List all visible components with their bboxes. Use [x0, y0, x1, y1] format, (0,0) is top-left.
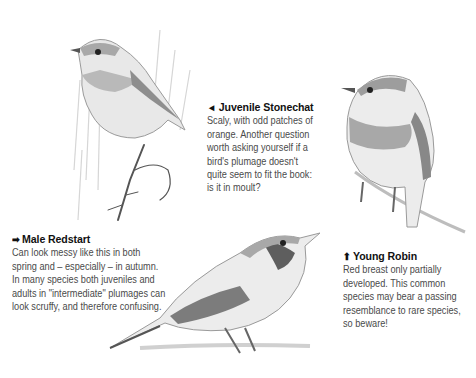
- caption-young-robin: ⬆Young Robin Red breast only partially d…: [343, 250, 474, 330]
- caption-body: Scaly, with odd patches of orange. Anoth…: [207, 114, 313, 194]
- caption-male-redstart: ➡Male Redstart Can look messy like this …: [12, 233, 182, 313]
- arrow-up-icon: ⬆: [343, 251, 350, 262]
- arrow-right-icon: ➡: [12, 234, 19, 245]
- caption-juvenile-stonechat: ◄Juvenile Stonechat Scaly, with odd patc…: [207, 101, 325, 195]
- arrow-left-icon: ◄: [207, 102, 216, 113]
- robin-illustration: [335, 62, 475, 242]
- caption-body: Red breast only partially developed. Thi…: [343, 263, 461, 330]
- caption-title: ◄Juvenile Stonechat: [207, 101, 314, 114]
- caption-title: ➡Male Redstart: [12, 233, 90, 246]
- stonechat-illustration: [60, 20, 210, 230]
- caption-body: Can look messy like this in both spring …: [12, 246, 165, 313]
- caption-title: ⬆Young Robin: [343, 250, 417, 263]
